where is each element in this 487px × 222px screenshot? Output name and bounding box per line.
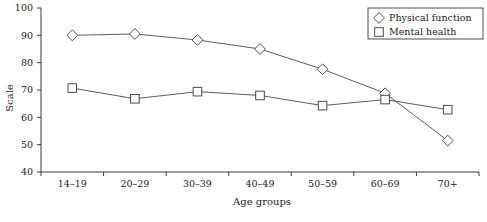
- square-marker: [443, 105, 452, 114]
- x-tick-label: 40–49: [246, 178, 275, 189]
- y-tick-label: 70: [21, 84, 33, 95]
- diamond-marker: [317, 64, 328, 75]
- square-marker: [131, 94, 140, 103]
- legend-label: Physical function: [389, 12, 472, 23]
- y-tick-label: 100: [15, 2, 33, 13]
- y-tick-label: 90: [21, 30, 33, 41]
- diamond-marker: [129, 29, 140, 40]
- diamond-marker: [67, 30, 78, 41]
- caption-cutoff-sliver: [0, 218, 487, 222]
- x-tick-label: 30–39: [183, 178, 212, 189]
- data-series-layer: [67, 29, 453, 146]
- chart-figure: 405060708090100 14–1920–2930–3940–4950–5…: [0, 0, 487, 222]
- diamond-marker: [192, 35, 203, 46]
- x-tick-label: 60–69: [371, 178, 400, 189]
- y-axis-ticks: [37, 8, 41, 172]
- y-tick-label: 40: [21, 166, 33, 177]
- series-mental-health: [68, 84, 452, 114]
- diamond-marker: [255, 44, 266, 55]
- y-axis-title: Scale: [4, 84, 15, 112]
- diamond-marker: [442, 135, 453, 146]
- x-tick-label: 14–19: [58, 178, 87, 189]
- y-axis-tick-labels: 405060708090100: [15, 2, 33, 177]
- line-chart-canvas: 405060708090100 14–1920–2930–3940–4950–5…: [0, 0, 487, 222]
- y-tick-label: 80: [21, 57, 33, 68]
- x-tick-label: 20–29: [120, 178, 149, 189]
- square-marker: [256, 91, 265, 100]
- x-axis-title: Age groups: [232, 196, 291, 207]
- legend-label: Mental health: [389, 26, 456, 37]
- square-marker: [68, 84, 77, 93]
- square-marker: [381, 95, 390, 104]
- square-marker: [375, 28, 384, 37]
- series-physical-function: [67, 29, 453, 146]
- x-axis-ticks: [41, 172, 479, 176]
- chart-legend: Physical functionMental health: [368, 8, 483, 39]
- x-tick-label: 70+: [438, 178, 458, 189]
- x-tick-label: 50–59: [308, 178, 337, 189]
- x-axis-tick-labels: 14–1920–2930–3940–4950–5960–6970+: [58, 178, 458, 189]
- y-tick-label: 50: [21, 139, 33, 150]
- square-marker: [318, 101, 327, 110]
- caption-cutoff-text: [0, 218, 487, 222]
- y-tick-label: 60: [21, 112, 33, 123]
- square-marker: [193, 87, 202, 96]
